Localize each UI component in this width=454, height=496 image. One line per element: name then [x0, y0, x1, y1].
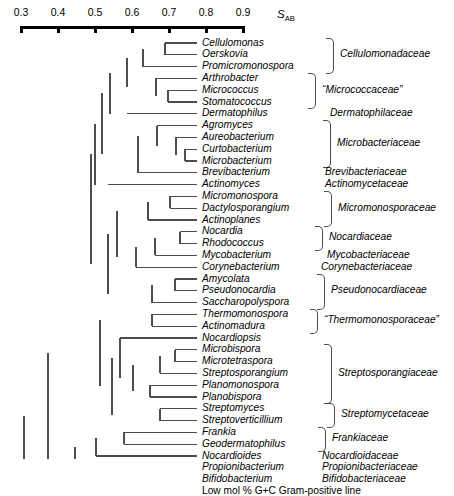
taxon-label: Planomonospora	[202, 380, 279, 390]
taxon-label: Planobispora	[202, 392, 261, 402]
taxon-label: Microbispora	[202, 344, 260, 354]
family-label: Dermatophilaceae	[330, 108, 413, 118]
taxon-label: Actinomyces	[202, 179, 260, 189]
taxon-label: Microbacterium	[202, 156, 272, 166]
family-label: Nocardiaceae	[329, 232, 392, 242]
taxon-label: Arthrobacter	[202, 73, 258, 83]
taxon-label: Nocardia	[202, 226, 243, 236]
taxon-label: Micromonospora	[202, 191, 278, 201]
taxon-label: Actinoplanes	[202, 215, 260, 225]
family-label: Streptosporangiaceae	[338, 368, 438, 378]
taxon-label: Frankia	[202, 427, 236, 437]
family-label: Micromonosporaceae	[338, 203, 436, 213]
family-label: Microbacteriaceae	[337, 138, 420, 148]
family-bracket	[327, 403, 335, 428]
family-bracket	[326, 38, 334, 75]
family-bracket	[315, 226, 323, 251]
taxon-label: Micrococcus	[202, 85, 259, 95]
taxon-label: Streptosporangium	[202, 368, 288, 378]
family-label: Mycobacteriaceae	[327, 250, 410, 260]
taxon-label: Agromyces	[202, 120, 253, 130]
taxon-label: Thermomonospora	[202, 309, 288, 319]
family-label: “Thermomonosporaceae”	[324, 315, 439, 325]
family-bracket	[310, 309, 318, 334]
family-label: Pseudonocardiaceae	[331, 285, 427, 295]
family-label: Nocardioidaceae	[322, 451, 398, 461]
taxon-label: Aureobacterium	[202, 132, 274, 142]
taxon-label: Streptoverticillium	[202, 415, 282, 425]
taxon-label: Bifidobacterium	[202, 474, 272, 484]
taxon-label: Promicromonospora	[202, 61, 294, 71]
family-bracket	[308, 73, 316, 110]
family-label: Brevibacteriaceae	[325, 167, 407, 177]
family-label: Bifidobacteriaceae	[322, 474, 406, 484]
taxon-label: Nocardioides	[202, 451, 261, 461]
family-label: Streptomycetaceae	[341, 409, 429, 419]
taxon-label: Propionibacterium	[202, 462, 284, 472]
family-label: Frankiaceae	[332, 433, 388, 443]
taxon-label: Cellulomonas	[202, 38, 264, 48]
family-bracket	[324, 191, 332, 228]
taxon-label: Mycobacterium	[202, 250, 271, 260]
family-bracket	[323, 120, 331, 168]
taxon-label: Streptomyces	[202, 403, 264, 413]
taxon-label: Stomatococcus	[202, 97, 272, 107]
taxon-label: Nocardiopsis	[202, 333, 261, 343]
family-label: “Micrococcaceae”	[322, 85, 402, 95]
taxon-label: Amycolata	[202, 274, 250, 284]
taxon-label: Saccharopolyspora	[202, 297, 289, 307]
taxon-label: Microtetraspora	[202, 356, 273, 366]
taxon-label: Actinomadura	[202, 321, 265, 331]
taxon-label: Corynebacterium	[202, 262, 280, 272]
taxon-label: Pseudonocardia	[202, 285, 276, 295]
family-label: Corynebacteriaceae	[321, 262, 412, 272]
family-bracket	[318, 427, 326, 452]
taxon-label: Dactylosporangium	[202, 203, 289, 213]
taxon-label: Dermatophilus	[202, 108, 268, 118]
taxon-label: Curtobacterium	[202, 144, 272, 154]
taxon-label: Rhodococcus	[202, 238, 264, 248]
family-bracket	[317, 274, 325, 311]
family-label: Propionibacteriaceae	[322, 462, 418, 472]
taxon-label: Geodermatophilus	[202, 439, 285, 449]
taxon-label: Brevibacterium	[202, 167, 270, 177]
family-label: Cellulomonadaceae	[340, 49, 430, 59]
family-bracket	[324, 344, 332, 404]
family-label: Actinomycetaceae	[325, 179, 408, 189]
taxon-label: Oerskovia	[202, 49, 248, 59]
taxon-label: Low mol % G+C Gram-positive line	[202, 486, 361, 496]
